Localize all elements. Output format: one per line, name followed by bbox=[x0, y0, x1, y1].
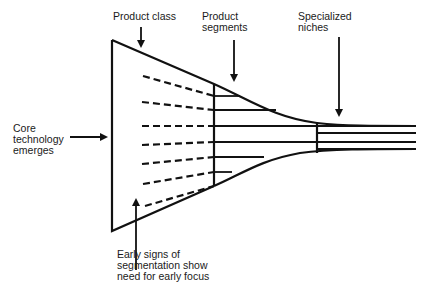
dashed-line bbox=[142, 142, 214, 145]
dashed-line bbox=[142, 102, 214, 110]
label-early-signs: Early signs of segmentation show need fo… bbox=[117, 248, 210, 282]
label-specialized-niches: Specialized niches bbox=[298, 10, 355, 33]
dashed-line bbox=[143, 172, 214, 184]
dashed-line bbox=[145, 186, 214, 206]
early-segmentation-dashes bbox=[142, 76, 214, 206]
label-product-class: Product class bbox=[113, 10, 176, 22]
funnel-bottom-edge bbox=[214, 149, 416, 186]
funnel-top-edge bbox=[112, 40, 416, 126]
label-product-segments: Product segments bbox=[202, 10, 248, 33]
dashed-line bbox=[142, 157, 214, 164]
niche-lines bbox=[317, 126, 416, 149]
product-class-funnel bbox=[112, 40, 214, 231]
label-core-technology: Core technology emerges bbox=[13, 122, 67, 156]
segmentation-funnel-diagram: Product class Product segments Specializ… bbox=[0, 0, 430, 294]
